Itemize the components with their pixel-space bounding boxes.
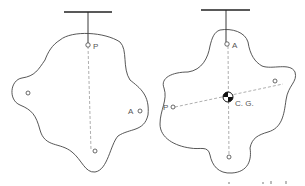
right-hole-1: [273, 79, 277, 83]
right-label-cg: C. G.: [235, 99, 254, 108]
right-hole-2: [227, 155, 231, 159]
scan-artifacts: [228, 181, 287, 184]
right-label-p: P: [163, 103, 168, 112]
right-label-a: A: [232, 41, 238, 50]
left-panel: P A: [12, 12, 148, 172]
left-point-a-hole: [138, 109, 142, 113]
left-plumb-line: [88, 46, 91, 150]
left-point-p-hole: [86, 43, 90, 47]
cg-symbol-icon: [223, 92, 233, 102]
right-panel: A P C. G.: [160, 10, 296, 173]
left-plate-outline: [12, 33, 148, 172]
left-hole-2: [93, 149, 97, 153]
left-label-p: P: [93, 42, 98, 51]
center-of-gravity-diagram: P A A P C. G.: [0, 0, 305, 186]
left-hole-1: [26, 91, 30, 95]
right-point-a-hole: [225, 42, 229, 46]
left-label-a: A: [128, 107, 134, 116]
right-point-p-hole: [171, 105, 175, 109]
